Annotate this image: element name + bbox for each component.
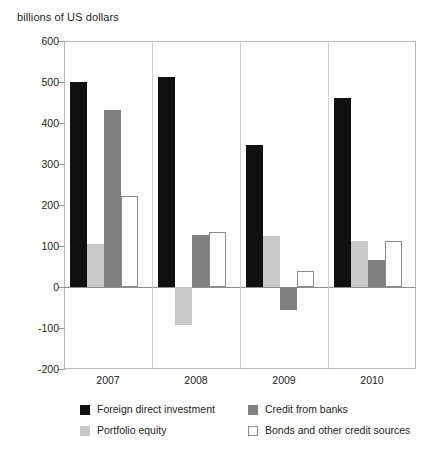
bar-fdi-2007 — [70, 82, 87, 287]
y-axis-tick — [58, 164, 65, 165]
legend-swatch-credit-icon — [248, 405, 258, 415]
y-axis-tick-label: 100 — [0, 240, 59, 252]
bar-portfolio-2008 — [175, 287, 192, 325]
bar-portfolio-2007 — [87, 244, 104, 287]
y-axis-tick — [58, 205, 65, 206]
bar-portfolio-2010 — [351, 241, 368, 287]
x-axis-label-2007: 2007 — [64, 374, 152, 386]
legend-swatch-portfolio-icon — [80, 426, 90, 436]
bar-fdi-2008 — [158, 77, 175, 287]
bar-fdi-2009 — [246, 145, 263, 287]
legend-swatch-fdi-icon — [80, 405, 90, 415]
y-axis-tick-label: -100 — [0, 322, 59, 334]
category-separator — [328, 41, 329, 369]
x-axis-label-2010: 2010 — [328, 374, 416, 386]
y-axis-tick-label: 300 — [0, 158, 59, 170]
y-axis-tick — [58, 246, 65, 247]
bar-fdi-2010 — [334, 98, 351, 287]
bar-bonds-2010 — [385, 241, 402, 287]
bar-bonds-2009 — [297, 271, 314, 287]
y-axis-tick-label: 0 — [0, 281, 59, 293]
bar-credit-2007 — [104, 110, 121, 287]
bar-bonds-2007 — [121, 196, 138, 287]
legend-label: Credit from banks — [265, 404, 348, 415]
y-axis-tick — [58, 82, 65, 83]
bar-credit-2008 — [192, 235, 209, 287]
y-axis-tick — [58, 41, 65, 42]
legend-label: Portfolio equity — [97, 425, 166, 436]
legend-item-portfolio[interactable]: Portfolio equity — [80, 425, 166, 436]
y-axis-tick-label: 500 — [0, 76, 59, 88]
x-axis-label-2008: 2008 — [152, 374, 240, 386]
y-axis-tick — [58, 369, 65, 370]
category-separator — [152, 41, 153, 369]
y-axis-tick-label: -200 — [0, 363, 59, 375]
bar-portfolio-2009 — [263, 236, 280, 287]
legend-item-bonds[interactable]: Bonds and other credit sources — [248, 425, 410, 436]
bar-credit-2010 — [368, 260, 385, 287]
legend-item-credit[interactable]: Credit from banks — [248, 404, 348, 415]
chart-container: billions of US dollars 60050040030020010… — [0, 0, 437, 456]
legend-label: Bonds and other credit sources — [265, 425, 410, 436]
bar-bonds-2008 — [209, 232, 226, 287]
legend-label: Foreign direct investment — [97, 404, 215, 415]
legend-swatch-bonds-icon — [248, 426, 258, 436]
y-axis-tick-label: 600 — [0, 35, 59, 47]
axis-title: billions of US dollars — [17, 11, 119, 23]
y-axis-tick — [58, 328, 65, 329]
x-axis-label-2009: 2009 — [240, 374, 328, 386]
bar-credit-2009 — [280, 287, 297, 310]
y-axis-tick-label: 400 — [0, 117, 59, 129]
legend-item-fdi[interactable]: Foreign direct investment — [80, 404, 215, 415]
category-separator — [240, 41, 241, 369]
y-axis-tick-label: 200 — [0, 199, 59, 211]
y-axis-tick — [58, 123, 65, 124]
